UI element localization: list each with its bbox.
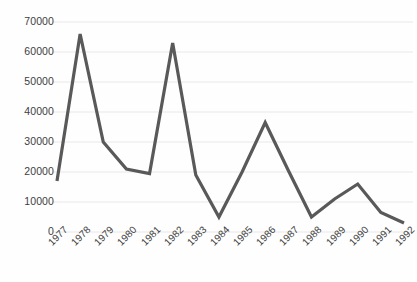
x-axis-tick-label: 1977	[46, 224, 70, 248]
x-axis-tick-label: 1989	[324, 224, 348, 248]
x-axis-tick-label: 1980	[115, 224, 139, 248]
x-axis-tick-label: 1988	[300, 224, 324, 248]
x-axis-tick-label: 1986	[254, 224, 278, 248]
x-axis-tick-label: 1981	[139, 224, 163, 248]
x-axis-tick-label: 1982	[162, 224, 186, 248]
x-axis-tick-label: 1992	[393, 224, 417, 248]
x-axis-tick-label: 1991	[370, 224, 394, 248]
x-axis-tick-label: 1985	[231, 224, 255, 248]
x-axis-tick-label: 1983	[185, 224, 209, 248]
x-axis-tick-label: 1978	[69, 224, 93, 248]
x-axis-tick-label: 1984	[208, 224, 232, 248]
x-axis-tick-label: 1987	[277, 224, 301, 248]
x-axis-tick-label: 1990	[347, 224, 371, 248]
x-axis-tick-label: 1979	[92, 224, 116, 248]
